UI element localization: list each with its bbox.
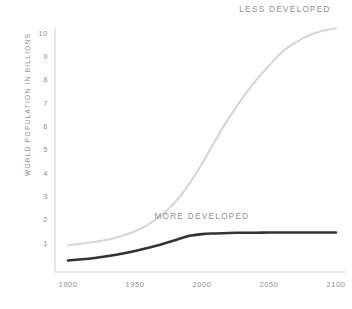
series-lines xyxy=(68,28,336,260)
x-axis-tick-2050: 2050 xyxy=(259,280,278,289)
y-axis-tick-3: 3 xyxy=(43,192,48,201)
y-axis-tick-9: 9 xyxy=(43,52,48,61)
x-axis-tick-2000: 2000 xyxy=(192,280,211,289)
y-axis-tick-1: 1 xyxy=(43,239,48,248)
y-axis-tick-labels: 12345678910 xyxy=(38,29,48,248)
x-axis-tick-labels: 19001950200020502100 xyxy=(58,280,345,289)
population-line-chart: WORLD POPULATION IN BILLIONS 12345678910… xyxy=(0,0,352,309)
y-axis-title: WORLD POPULATION IN BILLIONS xyxy=(24,33,31,176)
series-label-more-developed: MORE DEVELOPED xyxy=(154,212,249,221)
y-axis-tick-8: 8 xyxy=(43,75,48,84)
x-axis-tick-2100: 2100 xyxy=(326,280,345,289)
x-axis-tick-1950: 1950 xyxy=(125,280,144,289)
chart-container: WORLD POPULATION IN BILLIONS 12345678910… xyxy=(0,0,352,309)
y-axis-tick-5: 5 xyxy=(43,145,48,154)
series-label-less-developed: LESS DEVELOPED xyxy=(239,5,330,14)
y-axis-tick-10: 10 xyxy=(38,29,48,38)
y-axis-tick-7: 7 xyxy=(43,99,48,108)
y-axis-tick-4: 4 xyxy=(43,169,48,178)
series-line-more-developed xyxy=(68,232,336,260)
y-axis-tick-6: 6 xyxy=(43,122,48,131)
y-axis-tick-2: 2 xyxy=(43,215,48,224)
y-axis-title-label: WORLD POPULATION IN BILLIONS xyxy=(24,33,31,176)
x-axis-tick-1900: 1900 xyxy=(58,280,77,289)
